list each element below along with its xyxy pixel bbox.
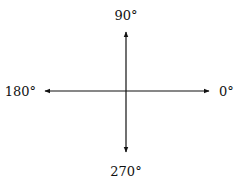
label-270-degrees: 270° xyxy=(110,164,141,179)
angle-axes-diagram: 90° 180° 0° 270° xyxy=(0,0,240,186)
label-0-degrees: 0° xyxy=(219,84,234,99)
label-90-degrees: 90° xyxy=(114,8,137,23)
label-180-degrees: 180° xyxy=(5,84,36,99)
